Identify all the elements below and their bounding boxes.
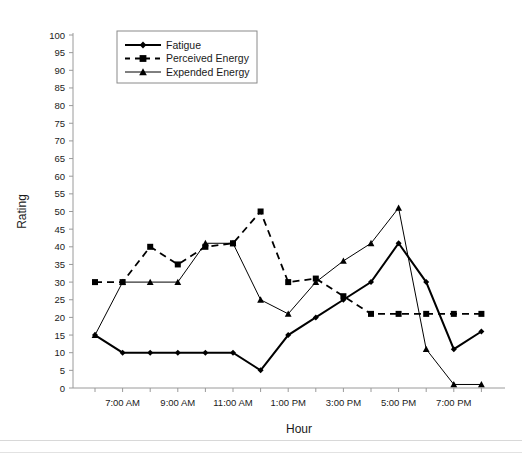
data-point-marker [147, 244, 153, 250]
y-axis-tick-label: 55 [54, 188, 65, 199]
x-axis: 7:00 AM9:00 AM11:00 AM1:00 PM3:00 PM5:00… [73, 388, 505, 408]
y-axis-tick-label: 10 [54, 347, 65, 358]
y-axis-tick-label: 30 [54, 277, 65, 288]
data-point-marker [396, 311, 402, 317]
y-axis-tick-label: 65 [54, 153, 65, 164]
x-axis-tick-label: 7:00 PM [436, 397, 471, 408]
y-axis-tick-label: 60 [54, 171, 65, 182]
series-perceived-energy [92, 209, 484, 317]
y-axis-title: Rating [15, 194, 29, 229]
data-point-marker [175, 261, 181, 267]
x-axis-tick-label: 5:00 PM [381, 397, 416, 408]
data-point-marker [202, 350, 208, 356]
x-axis-tick-label: 7:00 AM [105, 397, 140, 408]
y-axis-tick-label: 50 [54, 206, 65, 217]
data-point-marker [423, 346, 430, 352]
y-axis-tick-label: 0 [60, 383, 65, 394]
y-axis-tick-label: 100 [49, 30, 65, 41]
data-point-marker [395, 205, 402, 211]
data-point-marker [140, 55, 147, 62]
data-point-marker [423, 311, 429, 317]
series-expended-energy [92, 205, 485, 388]
data-point-marker [175, 350, 181, 356]
data-point-marker [147, 350, 153, 356]
legend-item-label: Perceived Energy [166, 52, 250, 64]
legend-item-label: Fatigue [166, 39, 201, 51]
y-axis-tick-label: 35 [54, 259, 65, 270]
data-point-marker [120, 279, 126, 285]
page-divider [0, 440, 522, 441]
y-axis-tick-label: 95 [54, 47, 65, 58]
y-axis-tick-label: 85 [54, 82, 65, 93]
data-point-marker [92, 279, 98, 285]
data-point-marker [258, 209, 264, 215]
x-axis-tick-label: 11:00 AM [213, 397, 253, 408]
chart-legend: FatiguePerceived EnergyExpended Energy [117, 31, 257, 83]
data-point-marker [230, 240, 236, 246]
chart-figure: 0510152025303540455055606570758085909510… [0, 0, 522, 462]
y-axis-tick-label: 5 [60, 365, 65, 376]
data-point-marker [257, 296, 264, 302]
x-axis-tick-label: 1:00 PM [271, 397, 306, 408]
series-line [95, 208, 481, 385]
y-axis-tick-label: 90 [54, 65, 65, 76]
data-point-marker [340, 258, 347, 264]
series-line [95, 212, 481, 314]
legend-item-label: Expended Energy [166, 66, 250, 78]
data-point-marker [202, 244, 208, 250]
page-divider-secondary [0, 452, 522, 453]
y-axis-tick-label: 75 [54, 118, 65, 129]
y-axis-tick-label: 45 [54, 224, 65, 235]
data-point-marker [451, 311, 457, 317]
y-axis-tick-label: 80 [54, 100, 65, 111]
data-point-marker [285, 279, 291, 285]
line-chart: 0510152025303540455055606570758085909510… [0, 0, 522, 462]
x-axis-title: Hour [286, 422, 312, 436]
y-axis-tick-label: 20 [54, 312, 65, 323]
y-axis: 0510152025303540455055606570758085909510… [49, 30, 73, 394]
data-point-marker [478, 311, 484, 317]
y-axis-tick-label: 25 [54, 294, 65, 305]
y-axis-tick-label: 15 [54, 330, 65, 341]
y-axis-tick-label: 70 [54, 135, 65, 146]
data-point-marker [368, 311, 374, 317]
x-axis-tick-label: 9:00 AM [160, 397, 195, 408]
y-axis-tick-label: 40 [54, 241, 65, 252]
series-fatigue [92, 240, 484, 373]
x-axis-tick-label: 3:00 PM [326, 397, 361, 408]
data-point-marker [313, 276, 319, 282]
